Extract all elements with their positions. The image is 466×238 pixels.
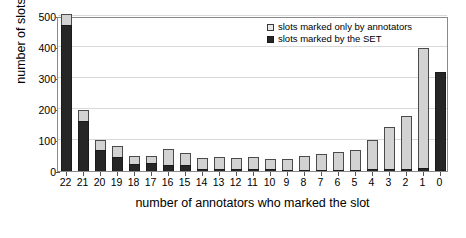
bar-segment-annotators-7: [316, 154, 327, 170]
bar-segment-annotators-13: [214, 157, 225, 169]
bar-0: [435, 72, 446, 171]
bar-segment-set-15: [180, 165, 191, 171]
bar-13: [214, 157, 225, 171]
x-tick-label-8: 8: [295, 177, 312, 188]
x-tick-label-2: 2: [397, 177, 414, 188]
bar-6: [333, 152, 344, 171]
y-tick-label-400: 400: [22, 43, 56, 54]
bar-18: [129, 156, 140, 171]
bar-segment-annotators-10: [265, 159, 276, 170]
bar-segment-annotators-9: [282, 159, 293, 170]
y-tick-label-100: 100: [22, 136, 56, 147]
gridline-500: [58, 15, 447, 16]
x-tick-label-22: 22: [57, 177, 74, 188]
legend-item-set: slots marked by the SET: [267, 33, 412, 45]
bar-segment-annotators-1: [418, 48, 429, 168]
bar-segment-annotators-6: [333, 152, 344, 170]
x-tick-label-14: 14: [193, 177, 210, 188]
x-tick-label-4: 4: [363, 177, 380, 188]
y-tick-label-300: 300: [22, 74, 56, 85]
bar-segment-annotators-16: [163, 149, 174, 165]
bar-segment-annotators-3: [384, 127, 395, 169]
bar-segment-annotators-18: [129, 156, 140, 165]
bar-14: [197, 158, 208, 171]
y-tick-label-200: 200: [22, 105, 56, 116]
x-axis-ticks: 222120191817161514131211109876543210: [57, 172, 448, 198]
bar-segment-annotators-11: [248, 157, 259, 169]
chart-figure: number of slots 0100200300400500 2221201…: [0, 0, 466, 238]
legend-item-label: slots marked by the SET: [278, 33, 381, 45]
bar-segment-set-19: [112, 157, 123, 171]
bar-segment-annotators-4: [367, 140, 378, 169]
bar-9: [282, 159, 293, 171]
chart-legend: slots marked only by annotators slots ma…: [267, 21, 412, 45]
bar-11: [248, 157, 259, 171]
y-axis-ticks: 0100200300400500: [16, 0, 56, 238]
bar-22: [61, 14, 72, 171]
bar-segment-set-12: [231, 169, 242, 171]
bar-segment-annotators-14: [197, 158, 208, 168]
x-tick-label-19: 19: [108, 177, 125, 188]
x-tick-label-7: 7: [312, 177, 329, 188]
bar-21: [78, 110, 89, 171]
x-tick-label-15: 15: [176, 177, 193, 188]
bar-segment-set-1: [418, 168, 429, 171]
x-tick-label-0: 0: [431, 177, 448, 188]
bar-15: [180, 153, 191, 171]
bar-7: [316, 154, 327, 171]
x-tick-label-10: 10: [261, 177, 278, 188]
x-axis-title: number of annotators who marked the slot: [57, 196, 448, 210]
x-tick-label-11: 11: [244, 177, 261, 188]
bar-1: [418, 48, 429, 171]
bar-20: [95, 140, 106, 171]
bar-segment-set-20: [95, 150, 106, 171]
bar-segment-set-10: [265, 169, 276, 171]
bar-segment-set-2: [401, 169, 412, 171]
x-tick-label-21: 21: [74, 177, 91, 188]
x-tick-label-3: 3: [380, 177, 397, 188]
bar-segment-set-3: [384, 169, 395, 171]
x-tick-label-13: 13: [210, 177, 227, 188]
bar-segment-set-22: [61, 25, 72, 171]
bar-segment-annotators-2: [401, 116, 412, 168]
bar-17: [146, 156, 157, 172]
bar-segment-set-21: [78, 121, 89, 171]
bar-segment-set-14: [197, 169, 208, 171]
bar-12: [231, 158, 242, 171]
x-tick-label-16: 16: [159, 177, 176, 188]
bar-segment-annotators-17: [146, 156, 157, 164]
x-tick-label-17: 17: [142, 177, 159, 188]
x-tick-label-12: 12: [227, 177, 244, 188]
bar-segment-annotators-19: [112, 146, 123, 157]
bar-segment-annotators-5: [350, 150, 361, 170]
x-tick-label-20: 20: [91, 177, 108, 188]
bar-19: [112, 146, 123, 171]
x-tick-label-1: 1: [414, 177, 431, 188]
bar-segment-set-17: [146, 163, 157, 171]
bar-3: [384, 127, 395, 171]
bar-segment-set-8: [299, 170, 310, 171]
legend-item-annotators: slots marked only by annotators: [267, 21, 412, 33]
bar-segment-annotators-21: [78, 110, 89, 121]
bar-segment-set-13: [214, 169, 225, 171]
bar-8: [299, 156, 310, 171]
bar-segment-set-0: [435, 72, 446, 171]
bar-segment-set-11: [248, 169, 259, 171]
bar-4: [367, 140, 378, 171]
bar-segment-annotators-8: [299, 156, 310, 170]
bar-segment-set-9: [282, 170, 293, 171]
bar-5: [350, 150, 361, 171]
bar-segment-annotators-12: [231, 158, 242, 169]
bar-16: [163, 149, 174, 171]
x-tick-label-9: 9: [278, 177, 295, 188]
x-tick-label-18: 18: [125, 177, 142, 188]
x-tick-label-5: 5: [346, 177, 363, 188]
bar-segment-set-18: [129, 164, 140, 171]
light-square-icon: [267, 24, 274, 31]
x-tick-label-6: 6: [329, 177, 346, 188]
bar-segment-set-16: [163, 165, 174, 171]
bar-segment-set-5: [350, 170, 361, 171]
bar-2: [401, 116, 412, 171]
y-tick-label-500: 500: [22, 12, 56, 23]
bar-segment-annotators-20: [95, 140, 106, 150]
